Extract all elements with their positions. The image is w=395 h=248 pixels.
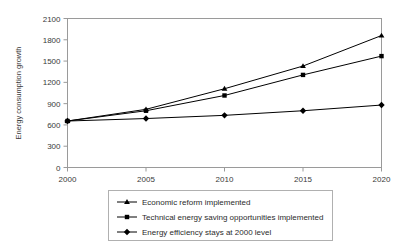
x-axis-tick-label: 2020 (373, 175, 391, 184)
y-axis-tick-label: 2100 (43, 15, 61, 24)
x-axis-tick-label: 2005 (137, 175, 155, 184)
y-axis: 03006009001200150018002100 (43, 15, 68, 173)
energy-consumption-growth-line-chart: 03006009001200150018002100 2000200520102… (0, 0, 395, 248)
data-point-marker-square (222, 93, 226, 97)
x-axis: 20002005201020152020 (59, 168, 391, 184)
y-axis-tick-label: 1500 (43, 57, 61, 66)
x-axis-tick-label: 2010 (216, 175, 234, 184)
x-axis-tick-label: 2000 (59, 175, 77, 184)
data-point-marker-square (379, 54, 383, 58)
data-point-marker-square (144, 109, 148, 113)
y-axis-tick-label: 0 (56, 164, 61, 173)
x-axis-tick-label: 2015 (294, 175, 312, 184)
y-axis-title: Energy consumption growth (14, 47, 23, 140)
y-axis-tick-label: 1200 (43, 78, 61, 87)
legend-item-label: Energy efficiency stays at 2000 level (142, 228, 271, 237)
data-point-marker-square (125, 215, 129, 219)
plot-area-frame (68, 19, 382, 168)
y-axis-tick-label: 300 (47, 142, 61, 151)
y-axis-tick-label: 600 (47, 121, 61, 130)
y-axis-tick-label: 900 (47, 100, 61, 109)
legend-item-label: Economic reform implemented (142, 198, 250, 207)
y-axis-tick-label: 1800 (43, 36, 61, 45)
chart-container: 03006009001200150018002100 2000200520102… (0, 0, 395, 248)
legend-item-label: Technical energy saving opportunities im… (142, 213, 323, 222)
legend-item-2[interactable]: Technical energy saving opportunities im… (117, 213, 323, 222)
data-point-marker-square (301, 73, 305, 77)
